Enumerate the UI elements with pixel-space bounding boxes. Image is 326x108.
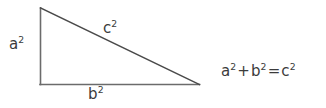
label-side-c: c2 — [103, 21, 117, 36]
equation-term-c-exponent: 2 — [290, 61, 296, 72]
equation-term-b-exponent: 2 — [261, 61, 267, 72]
label-side-c-exponent: 2 — [111, 18, 117, 29]
label-side-b-base: b — [88, 85, 98, 103]
label-side-a: a2 — [9, 37, 24, 52]
pythagorean-equation: a2+b2=c2 — [221, 64, 296, 79]
pythagorean-theorem-figure: a2 c2 b2 a2+b2=c2 — [0, 0, 326, 108]
label-side-b: b2 — [88, 87, 104, 102]
equation-equals-sign: = — [267, 62, 282, 80]
equation-term-c-base: c — [281, 62, 289, 80]
label-side-a-exponent: 2 — [18, 34, 24, 45]
equation-term-a-base: a — [221, 62, 230, 80]
equation-term-b-base: b — [251, 62, 261, 80]
label-side-a-base: a — [9, 35, 18, 53]
equation-plus-sign: + — [236, 62, 251, 80]
triangle-hypotenuse — [41, 8, 200, 85]
right-triangle-drawing — [0, 0, 326, 108]
label-side-b-exponent: 2 — [98, 84, 104, 95]
